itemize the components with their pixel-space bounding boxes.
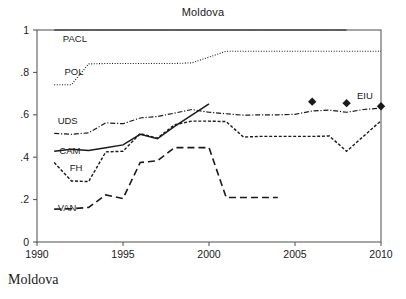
series-pol	[54, 51, 381, 84]
x-tick-label: 1995	[111, 248, 135, 260]
series-label-fh: FH	[70, 162, 83, 173]
figure-caption: Moldova	[8, 272, 59, 288]
series-label-eiu: EIU	[357, 90, 373, 101]
y-tick-label: 0	[23, 236, 29, 248]
series-label-cam: CAM	[59, 145, 80, 156]
x-tick-label: 2010	[369, 248, 393, 260]
y-tick-label: 1	[23, 24, 29, 36]
y-tick-label: .6	[20, 108, 29, 120]
data-point-marker	[377, 102, 385, 110]
series-label-pol: POL	[65, 66, 84, 77]
series-label-van: VAN	[58, 202, 77, 213]
x-tick-label: 2000	[197, 248, 221, 260]
series-cam	[54, 104, 209, 151]
series-label-uds: UDS	[58, 115, 78, 126]
data-point-marker	[342, 99, 350, 107]
figure-panel: Moldova 199019952000200520100.2.4.6.81 P…	[0, 0, 406, 299]
series-label-pacl: PACL	[63, 33, 87, 44]
x-tick-label: 1990	[25, 248, 49, 260]
series-van	[54, 148, 278, 209]
y-tick-label: .2	[20, 193, 29, 205]
chart-canvas: 199019952000200520100.2.4.6.81 PACLPOLUD…	[0, 0, 406, 299]
y-tick-label: .4	[20, 151, 29, 163]
series-layer	[54, 30, 385, 209]
data-point-marker	[308, 97, 316, 105]
y-tick-label: .8	[20, 66, 29, 78]
x-tick-label: 2005	[283, 248, 307, 260]
axes-layer: 199019952000200520100.2.4.6.81	[20, 24, 393, 261]
